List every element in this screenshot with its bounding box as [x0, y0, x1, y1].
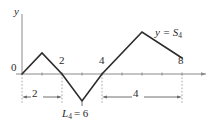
origin-label: 0 [11, 62, 17, 73]
dimension-guide-lines [22, 74, 182, 104]
period-label-value: = 6 [74, 107, 88, 119]
y-axis-label: y [14, 6, 19, 17]
x-axis-arrow [201, 72, 206, 75]
curve-equation-subscript: 4 [178, 31, 182, 40]
function-graph-figure [0, 0, 212, 136]
x-tick-label-8: 8 [178, 55, 184, 66]
x-tick-label-2: 2 [59, 55, 65, 66]
period-label-subscript: 4 [68, 112, 72, 121]
curve-equation-label: y = S4 [155, 27, 182, 40]
curve-equation-text: y = S [155, 26, 178, 38]
function-curve [22, 32, 182, 101]
period-label: L4= 6 [62, 108, 88, 121]
dimension-left-label: 2 [32, 88, 38, 99]
dimension-right-label: 4 [133, 88, 139, 99]
x-tick-label-4: 4 [99, 55, 105, 66]
